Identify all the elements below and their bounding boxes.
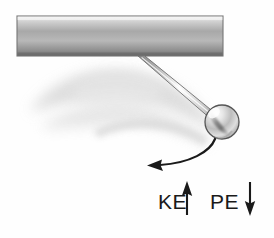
pendulum-diagram-canvas: KE PE xyxy=(0,0,274,238)
pe-label: PE xyxy=(210,190,239,213)
ke-label: KE xyxy=(158,190,187,213)
ceiling-support-bar xyxy=(17,16,223,56)
diagram-svg: KE PE xyxy=(0,0,274,238)
pe-label-group: PE xyxy=(210,182,255,216)
pe-down-arrow xyxy=(245,182,255,216)
ke-label-group: KE xyxy=(158,181,192,215)
pendulum-bob xyxy=(205,105,239,139)
motion-blur-shadow xyxy=(30,70,214,150)
